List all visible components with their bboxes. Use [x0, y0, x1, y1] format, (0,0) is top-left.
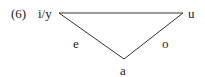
- vowel-label-e: e: [73, 37, 79, 50]
- vowel-label-u: u: [188, 7, 195, 20]
- right-edge: [124, 13, 183, 59]
- example-number: (6): [11, 7, 26, 20]
- vowel-triangle-diagram: (6) i/y u e o a: [0, 0, 205, 77]
- vowel-label-i-y: i/y: [38, 7, 52, 20]
- vowel-label-a: a: [120, 64, 126, 77]
- left-edge: [59, 13, 124, 59]
- vowel-label-o: o: [162, 37, 169, 50]
- triangle-lines: [0, 0, 205, 77]
